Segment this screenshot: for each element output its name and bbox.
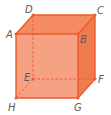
vertex-dot-A (15, 33, 18, 36)
vertex-dot-E (32, 78, 35, 81)
vertex-label-A: A (5, 29, 13, 40)
vertex-dot-G (77, 97, 80, 100)
vertex-label-E: E (24, 72, 31, 83)
vertex-label-G: G (74, 102, 82, 113)
vertex-dot-H (15, 97, 18, 100)
cube-svg: D C A B E F G H (0, 0, 111, 115)
vertex-label-C: C (97, 5, 104, 16)
front-face (16, 34, 78, 98)
cube-diagram: D C A B E F G H (0, 0, 111, 115)
vertex-label-D: D (25, 4, 33, 15)
vertex-label-H: H (8, 102, 16, 113)
vertex-label-F: F (98, 74, 104, 85)
vertex-dot-F (94, 78, 97, 81)
vertex-label-B: B (80, 34, 87, 45)
